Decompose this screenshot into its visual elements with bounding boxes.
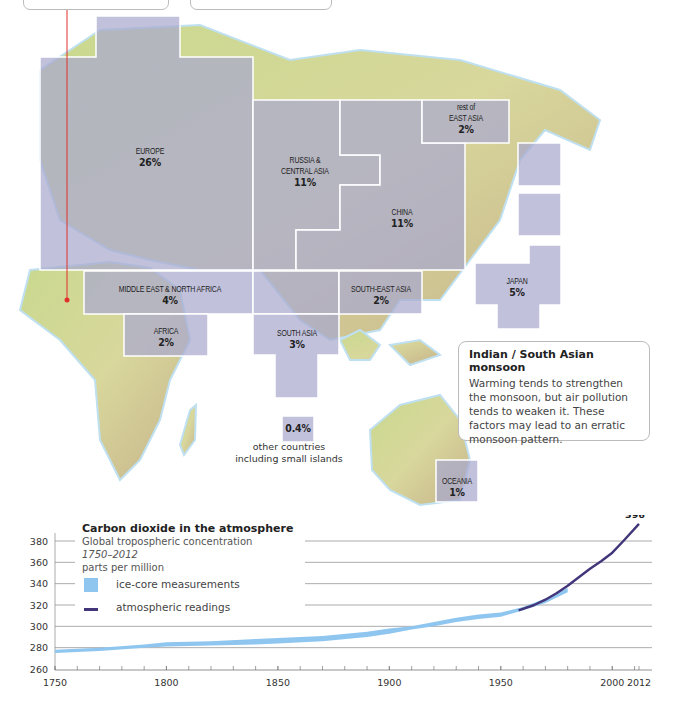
- region-share: 2%: [430, 124, 502, 135]
- top-callout-right: [190, 0, 332, 10]
- region-name-line-1: rest of: [435, 102, 497, 113]
- region-name: JAPAN: [488, 276, 545, 287]
- region-label-europe: EUROPE 26%: [121, 146, 178, 168]
- x-tick-label: 1950: [489, 677, 513, 688]
- region-name: SOUTH ASIA: [268, 328, 325, 339]
- chart-title: Carbon dioxide in the atmosphere: [82, 522, 312, 535]
- legend-label: atmospheric readings: [116, 601, 230, 613]
- annotation-label: 396: [625, 515, 645, 520]
- x-tick-label: 1800: [154, 677, 178, 688]
- region-name: EUROPE: [121, 146, 178, 157]
- legend-item-atmospheric: atmospheric readings: [82, 599, 312, 620]
- chart-period: 1750–2012: [82, 548, 312, 561]
- pointer-dot: [65, 298, 70, 303]
- block-island-1: [518, 143, 561, 186]
- x-tick-label: 2012: [627, 677, 651, 688]
- x-tick-label: 1900: [377, 677, 401, 688]
- region-name: SOUTH-EAST ASIA: [346, 284, 417, 295]
- y-tick-label: 380: [30, 536, 48, 547]
- region-name: OCEANIA: [428, 476, 485, 487]
- monsoon-title: Indian / South Asian monsoon: [469, 348, 639, 374]
- x-tick-label: 1750: [43, 677, 67, 688]
- region-share: 2%: [133, 337, 199, 348]
- chart-ylabel: parts per million: [82, 561, 312, 574]
- block-south-asia: [253, 314, 339, 398]
- top-callout-left: [23, 0, 169, 10]
- region-share: 1%: [424, 487, 490, 498]
- series-atmospheric-line: [519, 524, 639, 610]
- legend-label: ice-core measurements: [116, 578, 240, 590]
- region-label-oceania: OCEANIA 1%: [428, 476, 485, 498]
- y-axis: 260280300320340360380: [30, 536, 48, 675]
- region-name: AFRICA: [137, 326, 194, 337]
- chart-legend: Carbon dioxide in the atmosphere Global …: [82, 522, 312, 620]
- region-label-other: 0.4%: [269, 423, 326, 434]
- region-label-africa: AFRICA 2%: [137, 326, 194, 348]
- legend-swatch-atmospheric: [84, 608, 98, 611]
- monsoon-callout: Indian / South Asian monsoon Warming ten…: [458, 341, 650, 441]
- y-tick-label: 300: [30, 621, 48, 632]
- region-name: MIDDLE EAST & NORTH AFRICA: [96, 284, 244, 295]
- land-se-asia-islands: [340, 330, 440, 365]
- region-share: 26%: [117, 157, 183, 168]
- region-share: 0.4%: [265, 423, 331, 434]
- region-share: 3%: [264, 339, 330, 350]
- region-label-china: CHINA 11%: [373, 207, 430, 229]
- monsoon-body: Warming tends to strengthen the monsoon,…: [469, 376, 639, 446]
- other-label-line-1: other countries: [234, 441, 344, 453]
- y-tick-label: 340: [30, 578, 48, 589]
- region-share: 5%: [484, 287, 550, 298]
- region-share: 11%: [272, 177, 338, 188]
- region-label-rest-east-asia: rest of EAST ASIA 2%: [435, 102, 497, 135]
- block-island-2: [518, 193, 561, 236]
- y-tick-label: 280: [30, 642, 48, 653]
- other-countries-label: other countries including small islands: [234, 441, 344, 465]
- y-tick-label: 360: [30, 557, 48, 568]
- region-share: 11%: [369, 218, 435, 229]
- region-share: 4%: [85, 295, 255, 306]
- legend-swatch-ice-core: [84, 578, 98, 592]
- x-tick-label: 1850: [266, 677, 290, 688]
- region-label-mena: MIDDLE EAST & NORTH AFRICA 4%: [96, 284, 244, 306]
- block-mena-east: [253, 271, 339, 314]
- other-label-line-2: including small islands: [234, 453, 344, 465]
- region-name: CHINA: [373, 207, 430, 218]
- region-label-south-east-asia: SOUTH-EAST ASIA 2%: [346, 284, 417, 306]
- region-label-south-asia: SOUTH ASIA 3%: [268, 328, 325, 350]
- chart-annotations: 396: [625, 515, 645, 520]
- region-share: 2%: [340, 295, 421, 306]
- x-axis: 1750180018501900195020002012: [43, 666, 651, 688]
- legend-item-ice-core: ice-core measurements: [82, 576, 312, 597]
- y-tick-label: 260: [30, 664, 48, 675]
- chart-subtitle: Global tropospheric concentration: [82, 535, 312, 548]
- region-label-russia: RUSSIA & CENTRAL ASIA 11%: [276, 155, 333, 188]
- region-name-line-2: EAST ASIA: [435, 113, 497, 124]
- x-tick-label: 2000: [600, 677, 624, 688]
- y-tick-label: 320: [30, 600, 48, 611]
- land-madagascar: [180, 405, 196, 455]
- region-name-line-2: CENTRAL ASIA: [276, 166, 333, 177]
- region-label-japan: JAPAN 5%: [488, 276, 545, 298]
- region-name-line-1: RUSSIA &: [276, 155, 333, 166]
